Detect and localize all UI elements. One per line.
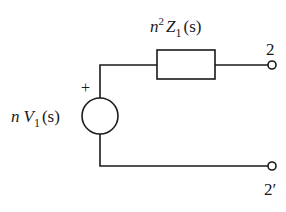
- impedance-label-exp: 2: [159, 15, 165, 27]
- circuit-diagram: n2Z1(s) 2 + nV1(s) 2′: [0, 0, 286, 212]
- source-label-arg: (s): [42, 107, 60, 126]
- source-label-coef: n: [11, 107, 20, 126]
- impedance-label-coef: n: [150, 17, 159, 36]
- polarity-plus: +: [81, 79, 90, 96]
- wire-top-left: [100, 65, 157, 98]
- wire-bottom: [100, 134, 268, 166]
- source-label-sub: 1: [34, 116, 40, 130]
- terminal-2prime-label: 2′: [264, 180, 276, 199]
- impedance-label-arg: (s): [183, 17, 201, 36]
- terminal-2-icon: [268, 61, 276, 69]
- terminal-2-label: 2: [266, 40, 275, 59]
- voltage-source-icon: [82, 98, 118, 134]
- impedance-label-sub: 1: [175, 26, 181, 40]
- terminal-2prime-icon: [268, 162, 276, 170]
- impedance-box: [157, 50, 215, 79]
- impedance-label: n2Z1(s): [150, 15, 201, 40]
- source-label: nV1(s): [11, 107, 60, 130]
